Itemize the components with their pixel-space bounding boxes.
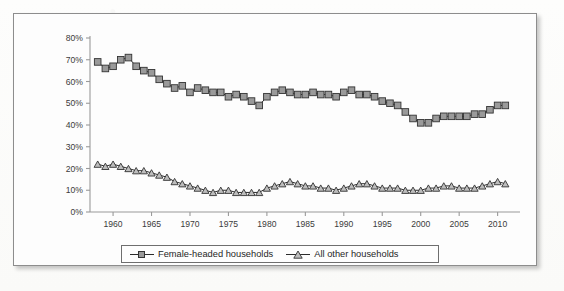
square-data-marker [241,93,248,100]
square-data-marker [371,93,378,100]
square-data-marker [171,85,178,92]
x-axis-tick-label: 1970 [180,219,199,229]
triangle-data-marker [109,161,116,167]
triangle-data-marker [333,187,340,193]
square-data-marker [302,91,309,98]
square-data-marker [117,56,124,63]
triangle-data-marker [163,174,170,180]
square-data-marker [202,87,209,94]
triangle-data-marker [486,181,493,187]
triangle-data-marker [156,172,163,178]
legend-label-all-other-households: All other households [314,249,398,259]
square-data-marker [494,102,501,109]
x-axis-tick-label: 2005 [450,219,469,229]
square-data-marker [271,89,278,96]
square-data-marker [356,91,363,98]
x-axis-tick-label: 1965 [142,219,161,229]
square-data-marker [402,109,409,116]
square-data-marker [417,120,424,127]
y-axis-tick-label: 40% [66,120,84,130]
y-axis-tick-label: 70% [66,55,84,65]
square-data-marker [217,89,224,96]
triangle-data-marker [294,181,301,187]
square-data-marker [487,106,494,113]
square-data-marker [256,102,263,109]
square-data-marker [279,87,286,94]
y-axis-tick-label: 30% [66,142,84,152]
square-data-marker [348,87,355,94]
square-data-marker [141,67,148,74]
triangle-data-marker [117,163,124,169]
triangle-data-marker [94,161,101,167]
triangle-data-marker [494,178,501,184]
square-data-marker [248,98,255,105]
x-axis-tick-label: 1985 [296,219,315,229]
square-data-marker [440,113,447,120]
triangle-data-marker [186,183,193,189]
triangle-data-marker [202,187,209,193]
chart-legend: Female-headed households All other house… [121,245,439,263]
square-data-marker [479,111,486,118]
square-data-marker [464,113,471,120]
x-axis-tick-label: 1960 [104,219,123,229]
square-data-marker [179,83,186,90]
triangle-data-marker [194,185,201,191]
square-data-marker [194,85,201,92]
square-data-marker [471,111,478,118]
line-chart: 0%10%20%30%40%50%60%70%80%19601965197019… [13,13,537,266]
triangle-data-marker [286,178,293,184]
triangle-data-marker [502,181,509,187]
square-data-marker [433,115,440,122]
square-data-marker [341,89,348,96]
square-data-marker [164,80,171,87]
triangle-glyph [293,250,303,259]
triangle-data-marker [102,163,109,169]
triangle-data-marker [340,185,347,191]
square-data-marker [410,115,417,122]
square-data-marker [294,91,301,98]
y-axis-tick-label: 80% [66,33,84,43]
square-data-marker [394,102,401,109]
data-series-1 [94,54,508,126]
triangle-data-marker [125,165,132,171]
triangle-data-marker [171,178,178,184]
square-data-marker [94,59,101,66]
square-data-marker [287,89,294,96]
triangle-data-marker [348,183,355,189]
square-data-marker [148,70,155,77]
square-data-marker [379,98,386,105]
square-data-marker [387,100,394,107]
square-data-marker [364,91,371,98]
triangle-data-marker [148,170,155,176]
square-data-marker [187,89,194,96]
triangle-marker-icon [286,249,310,260]
square-data-marker [156,76,163,83]
legend-label-female-headed-households: Female-headed households [158,249,273,259]
legend-entry-female-headed-households: Female-headed households [130,249,273,260]
square-data-marker [264,93,271,100]
chart-screenshot: 0%10%20%30%40%50%60%70%80%19601965197019… [0,0,564,291]
square-data-marker [225,93,232,100]
square-data-marker [133,63,140,70]
square-data-marker [110,63,117,70]
square-data-marker [502,102,509,109]
y-axis-tick-label: 10% [66,185,84,195]
square-data-marker [425,120,432,127]
data-series-2 [94,161,509,196]
triangle-data-marker [263,185,270,191]
triangle-data-marker [271,183,278,189]
triangle-data-marker [209,189,216,195]
square-data-marker [317,91,324,98]
legend-entry-all-other-households: All other households [286,249,398,260]
y-axis-tick-label: 20% [66,164,84,174]
square-data-marker [310,89,317,96]
y-axis-tick-label: 60% [66,77,84,87]
x-axis-tick-label: 1980 [257,219,276,229]
x-axis-tick-label: 1975 [219,219,238,229]
square-data-marker [102,65,109,72]
triangle-data-marker [279,181,286,187]
square-data-marker [210,89,217,96]
y-axis-tick-label: 50% [66,98,84,108]
square-marker-icon [130,249,154,260]
x-axis-tick-label: 2010 [488,219,507,229]
